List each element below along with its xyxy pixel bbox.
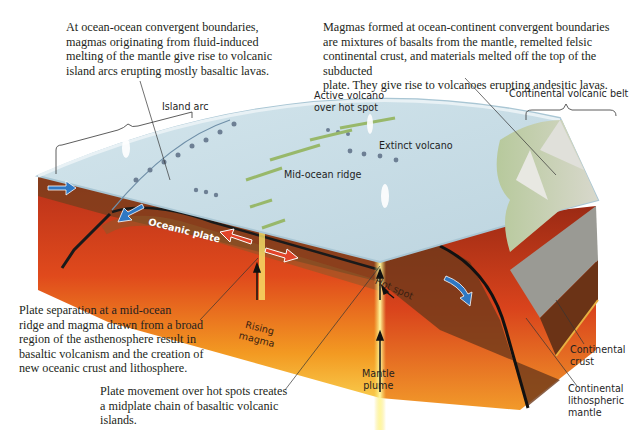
label-continental-crust: Continental crust: [570, 344, 625, 368]
ridge-magma-column: [259, 230, 265, 300]
caption-ocean-continent: Magmas formed at ocean-continent converg…: [323, 20, 644, 93]
label-active-volcano: Active volcano over hot spot: [314, 90, 384, 114]
label-mid-ocean-ridge: Mid-ocean ridge: [284, 169, 361, 181]
label-continental-volcanic-belt: Continental volcanic belt: [509, 88, 628, 100]
caption-mid-ocean: Plate separation at a mid-ocean ridge an…: [19, 303, 203, 376]
label-mantle-plume: Mantle plume: [362, 368, 395, 392]
label-island-arc: Island arc: [162, 101, 208, 113]
label-continental-lithospheric-mantle: Continental lithospheric mantle: [568, 383, 624, 419]
plate-tectonics-diagram: At ocean-ocean convergent boundaries, ma…: [0, 0, 644, 438]
caption-hot-spot: Plate movement over hot spots creates a …: [100, 384, 287, 428]
label-extinct-volcano: Extinct volcano: [379, 140, 453, 152]
caption-ocean-ocean: At ocean-ocean convergent boundaries, ma…: [66, 20, 272, 78]
